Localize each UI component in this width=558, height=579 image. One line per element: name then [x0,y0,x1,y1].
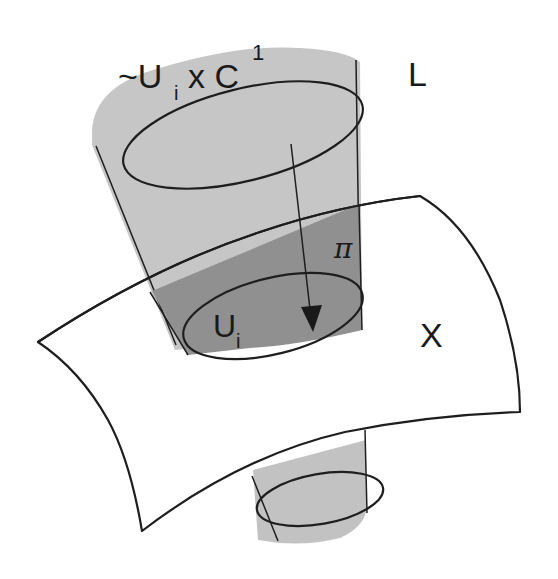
svg-text:~U: ~U [118,57,162,95]
svg-text:i: i [236,330,240,352]
svg-text:x C: x C [188,57,239,95]
svg-text:i: i [174,82,178,104]
line-bundle-diagram: ~U i x C 1 L π U i X [0,0,558,579]
cylinder-lower [252,430,387,544]
label-base-space-x: X [420,316,443,354]
label-projection-pi: π [333,232,353,265]
svg-text:U: U [213,308,236,344]
label-bundle-l: L [408,55,427,93]
svg-text:1: 1 [252,40,264,65]
